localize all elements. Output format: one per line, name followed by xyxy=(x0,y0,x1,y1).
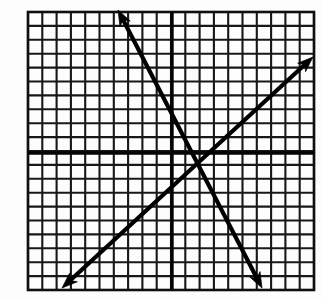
graph-figure xyxy=(0,0,323,299)
figure-background xyxy=(0,0,323,299)
coordinate-graph-svg xyxy=(0,0,323,299)
